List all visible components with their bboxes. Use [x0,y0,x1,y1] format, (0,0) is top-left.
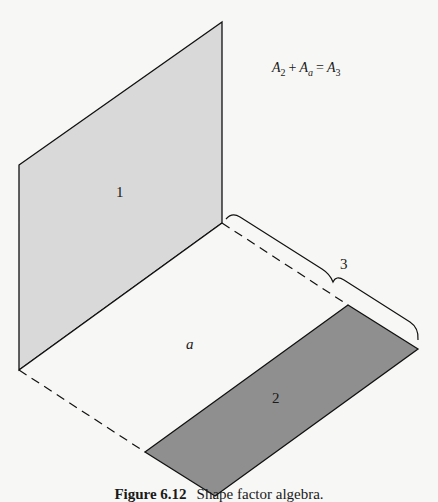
area-equation: A2+Aa=A3 [272,60,341,78]
figure-caption: Figure 6.12Shape factor algebra. [0,486,438,502]
label-brace-3: 3 [340,256,348,273]
caption-number: Figure 6.12 [114,486,186,502]
label-region-1: 1 [116,184,124,201]
label-region-2: 2 [272,390,280,407]
label-region-a: a [186,336,194,353]
caption-text: Shape factor algebra. [197,486,324,502]
diagram-canvas [0,0,438,502]
